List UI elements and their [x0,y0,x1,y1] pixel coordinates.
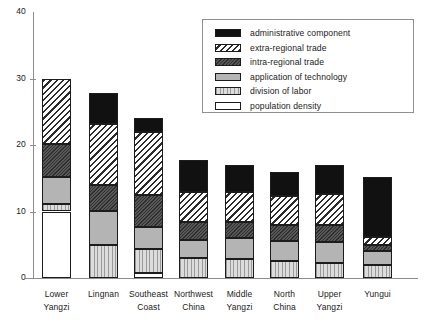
bar-upper-yangzi[interactable] [315,165,344,278]
bar-segment-intra-regional-trade [89,185,118,212]
legend-item-division-of-labor[interactable]: division of labor [215,86,311,96]
legend-item-population-density[interactable]: population density [215,101,321,111]
x-axis-label-yungui: Yungui [348,288,408,301]
bar-segment-application-of-technology [225,238,254,259]
legend-item-extra-regional-trade[interactable]: extra-regional trade [215,43,327,53]
legend-label: population density [250,101,321,111]
bar-segment-application-of-technology [134,227,163,249]
stacked-bar-chart: 010203040LowerYangziLingnanSoutheastCoas… [0,0,426,336]
bar-segment-population-density [42,212,71,279]
bar-segment-extra-regional-trade [225,192,254,223]
y-axis-tick-label: 40 [0,6,26,16]
bar-segment-application-of-technology [315,242,344,263]
bar-segment-administrative-component [270,172,299,196]
bar-segment-administrative-component [89,93,118,124]
bar-segment-intra-regional-trade [315,225,344,242]
y-axis-tick-label: 10 [0,206,26,216]
bar-segment-extra-regional-trade [89,124,118,185]
bar-segment-intra-regional-trade [42,144,71,177]
bar-segment-extra-regional-trade [179,192,208,222]
y-axis-tick [30,145,36,146]
legend-label: division of labor [250,86,311,96]
bar-northwest-china[interactable] [179,160,208,278]
x-axis-label-line: Yangzi [300,301,360,314]
bar-southeast-coast[interactable] [134,118,163,278]
legend-swatch-icon [215,29,241,37]
bar-north-china[interactable] [270,172,299,278]
bar-segment-administrative-component [179,160,208,192]
bar-yungui[interactable] [363,177,392,278]
x-axis-label-line: Yangzi [27,301,87,314]
bar-segment-application-of-technology [179,240,208,258]
bar-segment-intra-regional-trade [270,225,299,241]
bar-segment-intra-regional-trade [134,195,163,228]
y-axis-tick-label: 0 [0,272,26,282]
bar-segment-division-of-labor [179,258,208,278]
bar-segment-application-of-technology [89,211,118,244]
y-axis-tick-label: 20 [0,139,26,149]
x-axis-line [24,278,418,279]
legend-label: extra-regional trade [250,43,327,53]
chart-legend: administrative componentextra-regional t… [202,19,414,113]
bar-segment-division-of-labor [270,261,299,278]
bar-segment-division-of-labor [89,245,118,278]
bar-segment-division-of-labor [42,204,71,211]
y-axis-tick-label: 30 [0,73,26,83]
legend-item-application-of-technology[interactable]: application of technology [215,72,347,82]
y-axis-tick [30,79,36,80]
bar-segment-application-of-technology [42,177,71,204]
bar-segment-intra-regional-trade [179,222,208,240]
legend-swatch-icon [215,44,241,52]
legend-swatch-icon [215,87,241,95]
bar-segment-intra-regional-trade [225,222,254,238]
bar-segment-extra-regional-trade [315,194,344,225]
bar-segment-division-of-labor [134,249,163,273]
bar-segment-division-of-labor [225,259,254,278]
bar-middle-yangzi[interactable] [225,165,254,278]
bar-segment-administrative-component [315,165,344,194]
bar-lingnan[interactable] [89,93,118,278]
bar-segment-extra-regional-trade [42,79,71,145]
legend-label: application of technology [250,72,347,82]
bar-segment-administrative-component [134,118,163,131]
y-axis-tick [30,212,36,213]
bar-segment-intra-regional-trade [363,245,392,252]
bar-segment-extra-regional-trade [270,196,299,226]
bar-segment-extra-regional-trade [363,237,392,245]
bar-segment-administrative-component [225,165,254,192]
bar-segment-application-of-technology [270,241,299,261]
bar-segment-division-of-labor [315,263,344,278]
bar-segment-administrative-component [363,177,392,237]
legend-item-intra-regional-trade[interactable]: intra-regional trade [215,57,324,67]
bar-segment-extra-regional-trade [134,132,163,195]
legend-label: administrative component [250,28,350,38]
bar-segment-application-of-technology [363,251,392,264]
bar-lower-yangzi[interactable] [42,79,71,279]
x-axis-label-line: Yungui [348,288,408,301]
legend-swatch-icon [215,102,241,110]
legend-swatch-icon [215,73,241,81]
legend-item-administrative-component[interactable]: administrative component [215,28,350,38]
legend-label: intra-regional trade [250,57,324,67]
legend-swatch-icon [215,58,241,66]
bar-segment-population-density [134,273,163,278]
bar-segment-division-of-labor [363,265,392,278]
